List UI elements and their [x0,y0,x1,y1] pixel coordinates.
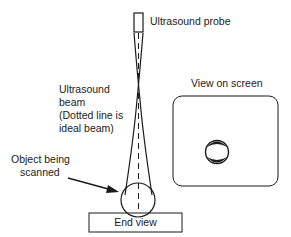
probe-shape [134,13,143,32]
diagram-canvas [0,0,291,237]
object-label-line2: scanned [20,166,60,179]
end-view-label: End view [89,216,182,229]
object-label-line1: Object being [11,153,70,166]
beam-label-line2: beam [59,96,85,109]
beam-label-line4: ideal beam) [59,122,114,135]
arrow-head-icon [106,185,119,193]
beam-label-line1: Ultrasound [59,83,110,96]
screen-label: View on screen [191,77,263,90]
beam-left-edge [125,33,143,195]
arrow-line [68,178,112,190]
probe-label: Ultrasound probe [150,15,231,28]
beam-right-edge [134,33,152,195]
screen-frame [173,96,278,186]
beam-label-line3: (Dotted line is [59,109,123,122]
